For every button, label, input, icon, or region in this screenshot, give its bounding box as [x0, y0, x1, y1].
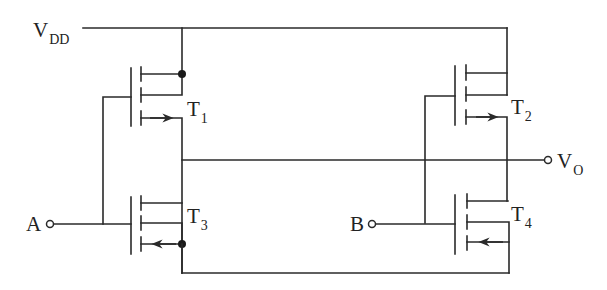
input-b-label: B: [350, 214, 364, 235]
output-terminal: [545, 157, 552, 164]
t4-subscript: 4: [525, 216, 532, 231]
input-b-wire: [369, 221, 456, 228]
vo-symbol: V: [557, 149, 572, 173]
t1-symbol: T: [187, 97, 200, 121]
junction-dot: [178, 70, 186, 78]
transistor-t1: [103, 67, 186, 273]
t3-label: T3: [187, 206, 208, 227]
output-wire: [182, 157, 552, 164]
t3-subscript: 3: [201, 218, 208, 233]
input-b-terminal: [369, 221, 376, 228]
t1-label: T1: [187, 99, 208, 120]
vo-subscript: O: [573, 163, 583, 178]
transistor-t3: [131, 196, 186, 273]
vdd-symbol: V: [33, 18, 48, 42]
t4-symbol: T: [511, 202, 524, 226]
t2-symbol: T: [511, 95, 524, 119]
circuit-diagram: VDD VO A B T1 T2 T3 T4: [0, 0, 607, 290]
circuit-schematic: [0, 0, 607, 290]
vdd-subscript: DD: [49, 32, 69, 47]
t3-symbol: T: [187, 204, 200, 228]
t2-subscript: 2: [525, 109, 532, 124]
vdd-rail: [83, 28, 507, 95]
vo-label: VO: [557, 151, 583, 172]
transistor-t4: [455, 194, 509, 273]
t1-subscript: 1: [201, 111, 208, 126]
input-a-wire: [47, 221, 132, 228]
t2-label: T2: [511, 97, 532, 118]
vdd-label: VDD: [33, 20, 69, 41]
input-a-label: A: [26, 214, 41, 235]
t4-label: T4: [511, 204, 532, 225]
input-a-terminal: [47, 221, 54, 228]
transistor-t2: [425, 65, 507, 223]
